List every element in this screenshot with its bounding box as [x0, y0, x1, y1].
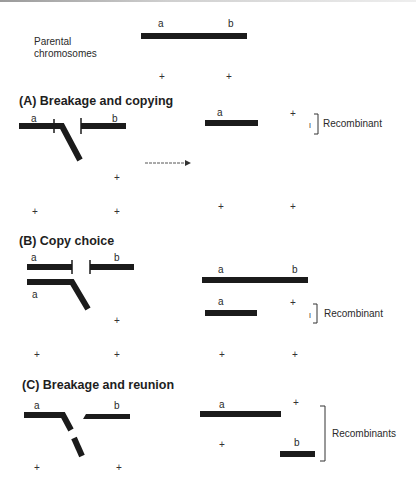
- section-a-bracket: [314, 114, 318, 134]
- section-c-left-b: b: [114, 400, 120, 411]
- section-c-left-a: a: [34, 400, 40, 411]
- parental-group: Parental chromosomes a b + +: [34, 18, 247, 82]
- section-a: (A) Breakage and copying a b + + + a + I…: [19, 94, 382, 217]
- section-b-right-b-top: b: [292, 264, 298, 275]
- parental-plus-right: +: [226, 71, 232, 82]
- section-c-left-strand-a: [24, 415, 71, 430]
- section-a-title: (A) Breakage and copying: [19, 94, 173, 108]
- section-b-left-strand-a-top: [27, 264, 72, 270]
- section-a-recombinant-bar: [205, 120, 258, 126]
- section-b-copy-bar: [202, 277, 308, 283]
- parental-label-line1: Parental: [34, 36, 71, 47]
- section-a-left-plus-mid: +: [114, 172, 120, 183]
- section-b-right-plus-bl: +: [219, 349, 225, 360]
- section-b-recombinant-bar: [205, 310, 257, 316]
- right-arrow-icon: [145, 160, 191, 166]
- section-b-bracket-label: Recombinant: [324, 308, 383, 319]
- section-a-left-plus-bl: +: [32, 206, 38, 217]
- section-a-left-plus-br: +: [114, 206, 120, 217]
- section-b-left-b-top: b: [114, 252, 120, 263]
- section-c-recombinant-bar-a: [200, 411, 281, 417]
- section-b-bracket: [313, 304, 317, 323]
- section-b-left-plus-bl: +: [34, 349, 40, 360]
- recombination-diagram: Parental chromosomes a b + + (A) Breakag…: [0, 0, 416, 486]
- section-b-left-plus-mid: +: [114, 315, 120, 326]
- section-b-left-a-bottom: a: [32, 289, 38, 300]
- parental-label-line2: chromosomes: [34, 48, 97, 59]
- section-a-right-plus-bl: +: [218, 201, 224, 212]
- section-b-right-a-top: a: [218, 264, 224, 275]
- parental-plus-left: +: [159, 71, 165, 82]
- section-a-right-plus-br: +: [290, 201, 296, 212]
- parental-chromosome-bar: [141, 33, 247, 39]
- section-b-left-strand-b-top: [90, 264, 134, 270]
- section-c-title: (C) Breakage and reunion: [22, 378, 174, 392]
- section-b-left-plus-br: +: [114, 349, 120, 360]
- section-b-right-a-bottom: a: [218, 296, 224, 307]
- section-b-right-plus-top: +: [290, 297, 296, 308]
- section-c-right-plus-top: +: [293, 397, 299, 408]
- section-c-left-plus-bl: +: [34, 462, 40, 473]
- section-b-title: (B) Copy choice: [19, 234, 114, 248]
- section-c-left-strand-fragment: [74, 438, 82, 456]
- section-c-right-b: b: [294, 437, 300, 448]
- section-c: (C) Breakage and reunion a b + + a + + b…: [22, 378, 396, 473]
- parental-marker-b: b: [228, 18, 234, 29]
- section-b: (B) Copy choice a b a + + + a b a + I Re…: [19, 234, 383, 360]
- section-c-left-strand-b: [83, 414, 130, 419]
- section-b-right-plus-br: +: [292, 349, 298, 360]
- section-b-left-a-top: a: [31, 252, 37, 263]
- section-a-right-plus-top: +: [290, 108, 296, 119]
- section-c-left-plus-br: +: [116, 462, 122, 473]
- section-a-right-a: a: [217, 107, 223, 118]
- section-a-left-strand-a: [19, 126, 80, 160]
- section-a-left-a: a: [31, 113, 37, 124]
- section-c-bracket: [320, 406, 325, 461]
- section-c-bracket-label: Recombinants: [332, 428, 396, 439]
- section-c-right-plus-mid: +: [219, 439, 225, 450]
- section-c-recombinant-bar-b: [280, 451, 315, 457]
- section-c-right-a: a: [219, 399, 225, 410]
- section-a-left-strand-b: [81, 123, 126, 129]
- section-a-left-b: b: [112, 113, 118, 124]
- parental-marker-a: a: [158, 18, 164, 29]
- section-a-small-mark: I: [309, 122, 311, 129]
- section-a-bracket-label: Recombinant: [323, 118, 382, 129]
- section-b-small-mark: I: [309, 312, 311, 319]
